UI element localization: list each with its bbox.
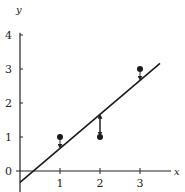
x-tick-label: 2 <box>97 177 104 190</box>
chart: 12301234 y x <box>0 0 185 192</box>
y-tick-label: 4 <box>5 29 12 42</box>
y-tick-label: 2 <box>5 97 12 110</box>
x-tick-label: 1 <box>57 177 64 190</box>
y-tick-label: 3 <box>5 63 12 76</box>
y-tick-label: 1 <box>5 131 12 144</box>
x-tick-label: 3 <box>137 177 144 190</box>
fit-line-group <box>20 63 160 182</box>
data-point <box>97 134 103 140</box>
y-tick-label: 0 <box>5 165 12 178</box>
y-axis-label: y <box>15 4 22 15</box>
data-point <box>57 134 63 140</box>
data-point <box>137 66 143 72</box>
axes <box>16 33 171 192</box>
ticks: 12301234 <box>5 29 144 190</box>
x-axis-label: x <box>174 166 180 177</box>
fit-line <box>20 63 160 182</box>
